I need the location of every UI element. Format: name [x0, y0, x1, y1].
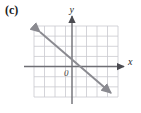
y-axis-label: y	[69, 4, 75, 15]
coordinate-plane-graph: x y 0	[0, 0, 141, 113]
figure-panel: (c)	[0, 0, 141, 113]
plotted-line	[40, 32, 111, 93]
origin-label: 0	[64, 68, 69, 78]
x-axis-label: x	[127, 56, 133, 67]
